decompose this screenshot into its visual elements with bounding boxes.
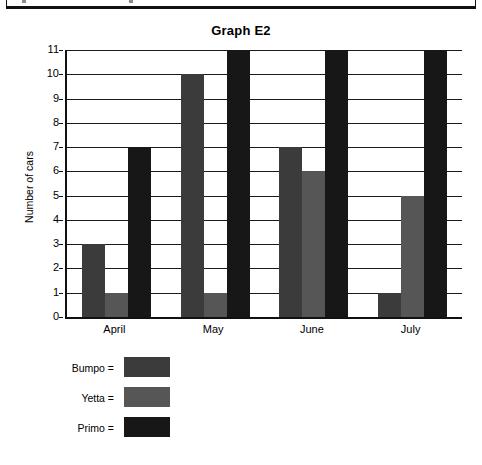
bar-primo-april [128, 147, 151, 317]
legend-item-primo: Primo = [50, 417, 250, 447]
y-tick-mark [59, 317, 63, 318]
y-tick-label: 8 [33, 117, 59, 128]
chart-legend: Bumpo =Yetta =Primo = [50, 357, 250, 447]
y-tick-mark [59, 244, 63, 245]
legend-label: Primo = [50, 422, 114, 434]
x-tick-label-july: July [366, 323, 456, 335]
y-tick-label: 11 [33, 44, 59, 55]
gridline [67, 147, 462, 148]
gridline [67, 74, 462, 75]
y-tick-mark [59, 220, 63, 221]
x-tick-label-june: June [267, 323, 357, 335]
cut-off-toolbar [6, 0, 476, 9]
y-tick-label: 5 [33, 190, 59, 201]
x-tick-label-april: April [69, 323, 159, 335]
y-tick-label: 1 [33, 287, 59, 298]
y-axis-ticks: 01234567891011 [31, 50, 59, 317]
y-tick-label: 10 [33, 68, 59, 79]
plot-inner [67, 50, 462, 317]
gridline [67, 171, 462, 172]
bar-primo-may [227, 50, 250, 317]
legend-swatch [124, 357, 170, 377]
bar-yetta-may [204, 293, 227, 317]
plot-area [65, 50, 462, 319]
bar-primo-july [424, 50, 447, 317]
legend-label: Yetta = [50, 392, 114, 404]
bar-yetta-april [105, 293, 128, 317]
legend-item-bumpo: Bumpo = [50, 357, 250, 387]
legend-swatch [124, 387, 170, 407]
bar-primo-june [325, 50, 348, 317]
y-tick-mark [59, 268, 63, 269]
bar-yetta-june [302, 171, 325, 317]
chart-figure: Graph E2 Number of cars 01234567891011 A… [0, 9, 482, 465]
legend-swatch [124, 417, 170, 437]
bar-yetta-july [401, 196, 424, 317]
bar-bumpo-april [82, 244, 105, 317]
y-tick-mark [59, 50, 63, 51]
legend-item-yetta: Yetta = [50, 387, 250, 417]
y-tick-mark [59, 171, 63, 172]
y-tick-label: 3 [33, 238, 59, 249]
y-tick-mark [59, 74, 63, 75]
y-tick-mark [59, 293, 63, 294]
gridline [67, 99, 462, 100]
bar-bumpo-may [181, 74, 204, 317]
y-tick-label: 0 [33, 311, 59, 322]
bar-bumpo-june [279, 147, 302, 317]
y-tick-label: 7 [33, 141, 59, 152]
legend-label: Bumpo = [50, 362, 114, 374]
chart-title: Graph E2 [0, 23, 482, 38]
y-tick-label: 6 [33, 165, 59, 176]
y-tick-label: 2 [33, 262, 59, 273]
y-tick-label: 4 [33, 214, 59, 225]
x-tick-label-may: May [168, 323, 258, 335]
y-tick-mark [59, 99, 63, 100]
toolbar-handle-left-icon [22, 0, 26, 3]
y-tick-mark [59, 196, 63, 197]
toolbar-inner-bar [7, 0, 475, 9]
gridline [67, 50, 462, 51]
y-tick-label: 9 [33, 93, 59, 104]
toolbar-handle-right-icon [129, 0, 133, 3]
y-tick-mark [59, 123, 63, 124]
y-tick-mark [59, 147, 63, 148]
gridline [67, 123, 462, 124]
bar-bumpo-july [378, 293, 401, 317]
